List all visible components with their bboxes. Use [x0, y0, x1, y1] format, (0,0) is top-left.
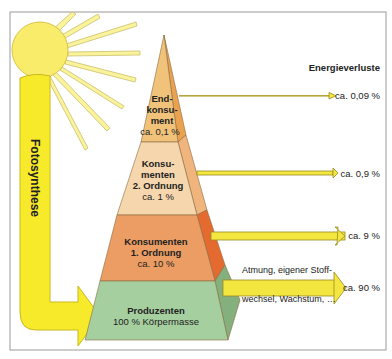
loss-value: ca. 0,09 % — [335, 90, 380, 101]
level-name-line: konsu- — [146, 104, 177, 115]
level-name-line: 2. Ordnung — [133, 180, 184, 191]
level-name-line: menten — [141, 169, 175, 180]
loss-value: ca. 9 % — [348, 230, 380, 241]
loss-arrow-1 — [197, 171, 333, 175]
level-name-line: ment — [151, 115, 175, 126]
energy-pyramid-diagram: Fotosynthese End- konsu- ment ca. 0,1 % … — [0, 0, 392, 359]
sun-icon — [12, 22, 68, 78]
loss-value: ca. 90 % — [343, 282, 381, 293]
level-name-line: 1. Ordnung — [131, 247, 182, 258]
level-name-line: Konsumenten — [124, 236, 188, 247]
loss-arrow-2 — [211, 232, 345, 240]
level-value: 100 % Körpermasse — [113, 316, 199, 327]
loss-value: ca. 0,9 % — [340, 168, 380, 179]
photosynthesis-label: Fotosynthese — [28, 139, 42, 217]
loss-arrow-0 — [179, 95, 329, 97]
loss-note-top: Atmung, eigener Stoff- — [242, 265, 332, 275]
level-name-line: Konsu- — [142, 158, 175, 169]
level-value: ca. 10 % — [138, 258, 176, 269]
loss-note-bottom: wechsel, Wachstum, … — [241, 294, 336, 304]
level-value: ca. 0,1 % — [140, 126, 180, 137]
level-name-line: Produzenten — [127, 305, 185, 316]
level-name-line: End- — [151, 93, 172, 104]
level-value: ca. 1 % — [142, 191, 174, 202]
energy-loss-title: Energieverluste — [309, 62, 380, 73]
